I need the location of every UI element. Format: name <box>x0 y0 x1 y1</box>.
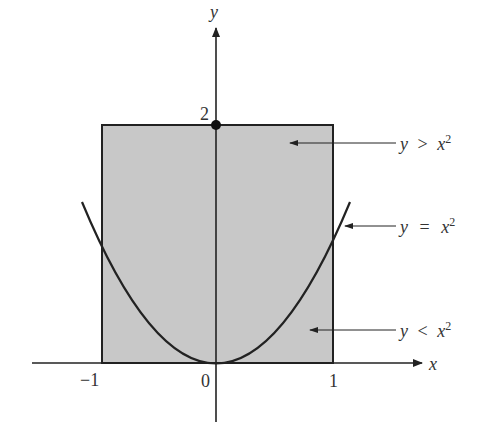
annotation-on: y = x2 <box>398 215 455 237</box>
x-tick-0: 0 <box>201 371 210 391</box>
y-tick-2: 2 <box>200 104 209 124</box>
x-axis-label: x <box>428 354 437 374</box>
parabola-region-diagram: y x −1 0 1 2 y > x2 y = x2 y < x2 <box>0 0 493 445</box>
shaded-rectangle-region <box>102 125 333 363</box>
annotation-above: y > x2 <box>398 132 451 154</box>
point-0-2 <box>211 120 221 130</box>
x-tick-neg1: −1 <box>80 370 99 390</box>
y-axis-label: y <box>208 2 218 22</box>
x-tick-1: 1 <box>329 371 338 391</box>
annotation-below: y < x2 <box>398 319 451 341</box>
